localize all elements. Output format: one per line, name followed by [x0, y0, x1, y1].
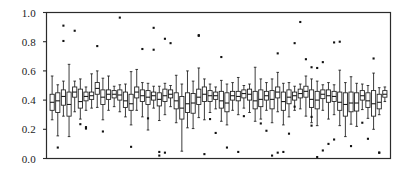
outlier-point: [350, 145, 352, 147]
boxplot-item: [309, 66, 313, 127]
boxplot-item: [163, 38, 167, 154]
outlier-point: [243, 115, 245, 117]
boxplot-item: [146, 83, 150, 130]
outlier-point: [62, 40, 64, 42]
boxplot-item: [219, 56, 223, 121]
boxplot-item: [332, 41, 336, 140]
box-body: [61, 90, 65, 105]
outlier-point: [327, 143, 329, 145]
boxplot-item: [56, 85, 60, 149]
boxplot-item: [287, 83, 291, 135]
outlier-point: [316, 67, 318, 69]
outlier-point: [277, 152, 279, 154]
boxplot-item: [95, 45, 99, 107]
boxplot-item: [112, 86, 116, 106]
box-body: [349, 92, 353, 112]
boxplot-item: [191, 81, 195, 128]
outlier-point: [158, 155, 160, 157]
box-body: [123, 92, 127, 107]
outlier-point: [57, 147, 59, 149]
outlier-point: [310, 116, 312, 118]
outlier-point: [237, 151, 239, 153]
boxplot-item: [67, 64, 71, 136]
boxplot-item: [152, 27, 156, 108]
box-body: [56, 93, 60, 113]
outlier-point: [62, 25, 64, 27]
outlier-point: [305, 58, 307, 60]
box-body: [219, 91, 223, 108]
boxplot-item: [343, 83, 347, 137]
boxplot-item: [73, 30, 77, 112]
outlier-point: [215, 132, 217, 134]
outlier-point: [79, 123, 81, 125]
box-body: [355, 93, 359, 111]
outlier-point: [367, 138, 369, 140]
outlier-point: [158, 151, 160, 153]
outlier-point: [119, 17, 121, 19]
outlier-point: [220, 56, 222, 58]
outlier-point: [310, 66, 312, 68]
outlier-point: [322, 61, 324, 63]
outlier-point: [294, 106, 296, 108]
boxplot-item: [140, 48, 144, 117]
boxplot-item: [157, 86, 161, 156]
boxplot-figure: 1.00.80.60.40.20.0: [0, 0, 407, 175]
boxplot-item: [360, 84, 364, 124]
boxplot-item: [304, 58, 308, 116]
boxplot-item: [135, 69, 139, 110]
outlier-point: [322, 149, 324, 151]
outlier-point: [170, 42, 172, 44]
boxplot-item: [214, 87, 218, 134]
boxplot-item: [168, 42, 172, 107]
box-body: [309, 90, 313, 108]
boxplot-item: [366, 86, 370, 140]
boxplot-item: [180, 84, 184, 151]
outlier-point: [147, 117, 149, 119]
outlier-point: [102, 130, 104, 132]
boxplot-item: [174, 75, 178, 122]
outlier-point: [130, 146, 132, 148]
outlier-point: [260, 122, 262, 124]
box-body: [259, 90, 263, 107]
box-body: [78, 89, 82, 108]
boxplot-item: [321, 61, 325, 151]
boxplot-item: [106, 76, 110, 110]
outlier-point: [164, 152, 166, 154]
outlier-point: [294, 42, 296, 44]
boxplot-item: [129, 72, 133, 148]
outlier-point: [74, 30, 76, 32]
outlier-point: [299, 21, 301, 23]
outlier-point: [310, 125, 312, 127]
outlier-point: [96, 45, 98, 47]
boxplot-item: [349, 77, 353, 147]
box-body: [338, 92, 342, 110]
boxplot-item: [123, 84, 127, 117]
outlier-point: [288, 133, 290, 135]
boxplot-item: [259, 79, 263, 125]
boxplot-item: [276, 52, 280, 153]
boxplot-item: [90, 74, 94, 108]
boxplot-item: [185, 71, 189, 128]
boxplot-item: [315, 67, 319, 158]
boxplot-item: [236, 77, 240, 153]
outlier-point: [209, 118, 211, 120]
boxplot-item: [61, 25, 65, 117]
boxplot-item: [202, 79, 206, 155]
outlier-point: [378, 152, 380, 154]
boxplot-item: [247, 84, 251, 112]
outlier-point: [316, 156, 318, 158]
boxplot-item: [293, 42, 297, 110]
outlier-point: [141, 48, 143, 50]
boxplot-item: [377, 88, 381, 154]
outlier-point: [333, 138, 335, 140]
boxplot-item: [281, 83, 285, 153]
outlier-point: [277, 52, 279, 54]
boxplot-item: [50, 76, 54, 120]
boxplot-item: [270, 79, 274, 157]
boxplot-item: [84, 87, 88, 130]
box-body: [366, 93, 370, 108]
boxplot-item: [225, 84, 229, 149]
boxplot-item: [264, 83, 268, 132]
boxplot-item: [355, 83, 359, 126]
box-body: [225, 93, 229, 112]
